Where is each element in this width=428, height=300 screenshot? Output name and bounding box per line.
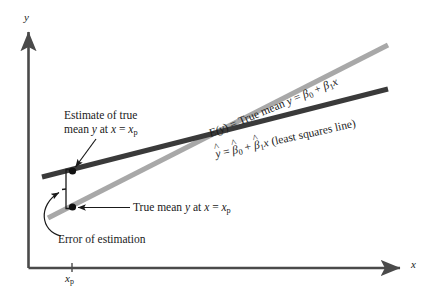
estimate-annotation-eq: = — [116, 123, 128, 135]
estimate-annotation-xp-sub: p — [133, 129, 137, 138]
error-bracket — [66, 170, 70, 209]
true-mean-point — [69, 203, 76, 210]
regression-diagram: y x xp Estimate of true mean y at x = xp… — [0, 0, 428, 300]
x-axis-label: x — [411, 258, 416, 272]
estimate-annotation-mid: at — [97, 123, 111, 135]
estimate-annotation-line2: mean y at x = xp — [64, 122, 138, 139]
least-squares-equation-beta0-wrap: ^β — [231, 143, 239, 156]
true-mean-annotation: True mean y at x = xp — [133, 200, 231, 217]
error-bracket-nib — [62, 189, 66, 190]
estimate-annotation-line1: Estimate of true — [64, 108, 138, 122]
true-mean-annotation-xp-sub: p — [227, 206, 231, 215]
error-of-estimation-annotation: Error of estimation — [58, 232, 146, 246]
xp-tick-label: xp — [65, 272, 74, 287]
y-axis-label: y — [24, 11, 29, 25]
true-mean-annotation-eq: = — [209, 201, 221, 213]
estimate-annotation: Estimate of true mean y at x = xp — [64, 108, 138, 139]
xp-tick-label-subscript: p — [70, 277, 74, 286]
true-mean-annotation-prefix: True mean — [133, 201, 185, 213]
least-squares-equation-beta1-wrap: ^β — [253, 138, 261, 151]
true-mean-annotation-mid: at — [190, 201, 204, 213]
estimate-annotation-prefix: mean — [64, 123, 92, 135]
estimate-point — [69, 167, 76, 174]
